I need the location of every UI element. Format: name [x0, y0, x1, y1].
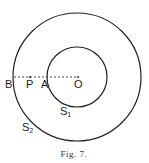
label-a: A — [41, 78, 49, 90]
label-s1: S1 — [60, 105, 71, 118]
label-p: P — [26, 78, 33, 90]
outer-circle-s2 — [13, 13, 141, 141]
figure-caption: Fig. 7. — [61, 149, 88, 159]
label-b: B — [5, 78, 12, 90]
label-o: O — [74, 78, 83, 90]
figure-diagram: B P A O S1 S2 Fig. 7. — [0, 0, 149, 163]
